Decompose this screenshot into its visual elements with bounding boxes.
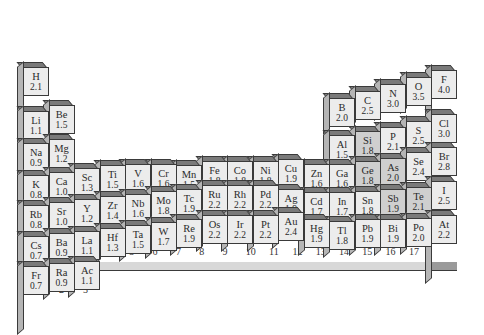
electronegativity-value: 1.6 [132,209,144,220]
element-symbol: Cu [285,163,297,174]
cube-front-face: At2.2 [431,215,457,244]
element-symbol: Mo [156,195,171,206]
floor-slab-group-15 [380,262,406,271]
element-symbol: N [389,88,397,99]
element-symbol: Tl [337,225,346,236]
element-symbol: C [364,95,371,106]
electronegativity-value: 1.1 [81,276,93,287]
cube-front-face: Ta1.5 [125,225,151,254]
electronegativity-value: 2.5 [413,136,425,147]
cube-front-face: Hf1.3 [100,228,126,257]
element-symbol: Po [413,222,424,233]
electronegativity-value: 1.9 [183,204,195,215]
floor-slab-group-7 [176,262,202,271]
cube-front-face: Pt2.2 [253,215,279,244]
cube-front-face: Os2.2 [202,215,228,244]
cube-front-face: Cl3.0 [431,114,457,143]
cube-front-face: Tl1.8 [329,221,355,250]
cube-front-face: Ac1.1 [74,261,100,290]
element-symbol: B [338,102,345,113]
electronegativity-value: 1.9 [311,234,323,245]
element-symbol: Cr [158,168,169,179]
electronegativity-value: 2.1 [30,82,42,93]
cube-front-face: H2.1 [23,67,49,96]
element-symbol: At [439,219,450,230]
element-symbol: Re [183,223,195,234]
element-symbol: Si [363,135,372,146]
element-symbol: Ge [361,165,373,176]
element-symbol: Te [413,191,423,202]
electronegativity-value: 2.1 [387,142,399,153]
element-symbol: Mg [54,143,69,154]
electronegativity-value: 1.9 [362,234,374,245]
element-symbol: Fe [209,165,220,176]
cube-front-face: W1.7 [151,222,177,251]
element-symbol: I [442,185,446,196]
element-symbol: Se [413,156,424,167]
electronegativity-value: 2.2 [234,200,246,211]
cube-front-face: Pb1.9 [355,219,381,248]
element-symbol: Rh [234,189,246,200]
element-symbol: Cs [30,240,41,251]
element-symbol: Mn [182,169,197,180]
electronegativity-value: 1.2 [56,154,68,165]
element-symbol: Na [30,147,42,158]
cube-front-face: Bi1.9 [380,219,406,248]
element-symbol: Ti [108,169,117,180]
electronegativity-value: 0.7 [30,251,42,262]
electronegativity-value: 0.8 [30,190,42,201]
electronegativity-value: 1.1 [30,126,42,137]
cube-front-face: Po2.0 [406,218,432,247]
electronegativity-value: 0.7 [30,281,42,292]
element-symbol: Ni [260,165,271,176]
element-symbol: P [390,131,396,142]
electronegativity-value: 2.2 [209,230,221,241]
electronegativity-value: 1.3 [107,243,119,254]
element-symbol: Ru [208,189,220,200]
cube-front-face: C2.5 [355,91,381,120]
electronegativity-value: 2.2 [209,200,221,211]
cube-front-face: Be1.5 [49,105,75,134]
element-symbol: Os [209,219,221,230]
element-symbol: W [159,226,169,237]
element-symbol: Zn [311,168,323,179]
electronegativity-value: 2.5 [438,196,450,207]
floor-slab-group-11 [278,262,304,271]
electronegativity-value: 1.6 [132,179,144,190]
electronegativity-value: 1.2 [81,214,93,225]
cube-front-face: Au2.4 [278,212,304,241]
element-symbol: Cd [310,196,322,207]
electronegativity-value: 1.8 [336,236,348,247]
electronegativity-value: 2.4 [285,227,297,238]
electronegativity-value: 4.0 [438,85,450,96]
element-symbol: Pt [261,219,270,230]
element-symbol: S [416,125,422,136]
element-symbol: Rb [30,209,42,220]
electronegativity-value: 1.0 [56,187,68,198]
electronegativity-value: 1.9 [183,234,195,245]
electronegativity-value: 2.2 [234,230,246,241]
group-label-17: 17 [409,246,419,257]
electronegativity-value: 0.9 [56,248,68,259]
electronegativity-value: 0.9 [30,158,42,169]
element-symbol: In [338,196,347,207]
element-symbol: Nb [132,198,145,209]
element-symbol: V [134,168,142,179]
element-symbol: Bi [388,223,398,234]
electronegativity-value: 3.5 [413,92,425,103]
electronegativity-value: 3.0 [387,99,399,110]
electronegativity-value: 2.2 [260,200,272,211]
electronegativity-value: 1.7 [158,237,170,248]
element-symbol: Zr [108,200,118,211]
electronegativity-value: 1.8 [362,176,374,187]
electronegativity-value: 1.9 [285,174,297,185]
floor-slab-group-13 [329,262,355,271]
electronegativity-value: 2.2 [438,230,450,241]
element-symbol: Ta [133,229,143,240]
electronegativity-value: 2.1 [413,202,425,213]
element-symbol: Sb [387,193,398,204]
electronegativity-value: 1.1 [81,246,93,257]
electronegativity-value: 1.5 [107,180,119,191]
element-symbol: Ba [56,237,68,248]
